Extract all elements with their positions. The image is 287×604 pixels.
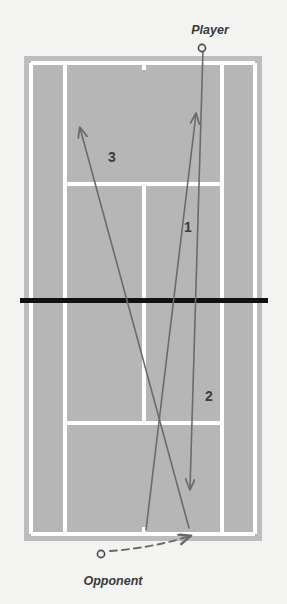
tennis-rally-diagram: Player Opponent 1 2 3 <box>0 0 287 604</box>
opponent-label: Opponent <box>83 574 143 588</box>
opponent-marker[interactable] <box>97 550 104 557</box>
shot-number-1: 1 <box>184 219 192 235</box>
player-label: Player <box>191 23 230 37</box>
player-marker[interactable] <box>198 44 205 51</box>
court-graphic: Player Opponent 1 2 3 <box>0 0 287 604</box>
shot-number-2: 2 <box>205 388 213 404</box>
shot-number-3: 3 <box>108 149 116 165</box>
